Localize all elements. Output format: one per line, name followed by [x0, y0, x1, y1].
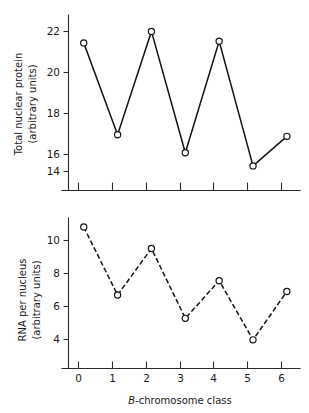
data-point-marker [284, 288, 290, 294]
data-point-marker [250, 163, 256, 169]
two-panel-line-chart-figure: Total nuclear protein (arbitrary units) … [0, 0, 309, 413]
data-point-marker [114, 292, 120, 298]
top-panel-y-tick-label-14: 14 [47, 165, 61, 177]
bottom-panel-y-axis-title-line1: RNA per nucleus [17, 259, 28, 342]
bottom-panel-x-tick-label-1: 1 [109, 372, 116, 384]
figure-background [0, 0, 309, 413]
bottom-panel-y-axis-title-line2: (arbitrary units) [31, 260, 42, 339]
data-point-marker [216, 278, 222, 284]
data-point-marker [250, 337, 256, 343]
data-point-marker [284, 133, 290, 139]
data-point-marker [114, 132, 120, 138]
bottom-panel-y-tick-label-10: 10 [47, 234, 60, 246]
data-point-marker [148, 245, 154, 251]
data-point-marker [81, 40, 87, 46]
bottom-panel-x-tick-label-2: 2 [143, 372, 150, 384]
top-panel-y-axis-title-line1: Total nuclear protein [13, 53, 24, 157]
bottom-panel-x-tick-label-6: 6 [278, 372, 285, 384]
bottom-panel-y-tick-label-6: 6 [53, 300, 60, 312]
bottom-panel-x-axis-title: B-chromosome class [128, 395, 231, 406]
bottom-panel-x-tick-label-5: 5 [244, 372, 251, 384]
top-panel-y-tick-label-22: 22 [47, 25, 60, 37]
bottom-panel-x-tick-label-4: 4 [210, 372, 217, 384]
data-point-marker [216, 38, 222, 44]
top-panel-y-tick-label-18: 18 [47, 107, 60, 119]
top-panel-y-tick-label-16: 16 [47, 148, 61, 160]
bottom-panel-x-tick-label-3: 3 [177, 372, 184, 384]
data-point-marker [81, 224, 87, 230]
top-panel-y-tick-label-20: 20 [47, 66, 60, 78]
bottom-panel-y-tick-label-8: 8 [53, 267, 60, 279]
bottom-panel-x-tick-label-0: 0 [75, 372, 82, 384]
data-point-marker [182, 315, 188, 321]
data-point-marker [182, 150, 188, 156]
top-panel-y-axis-title-line2: (arbitrary units) [27, 64, 38, 143]
data-point-marker [148, 28, 154, 34]
bottom-panel-y-tick-label-4: 4 [53, 333, 60, 345]
x-axis-title-rest: -chromosome class [135, 395, 232, 406]
